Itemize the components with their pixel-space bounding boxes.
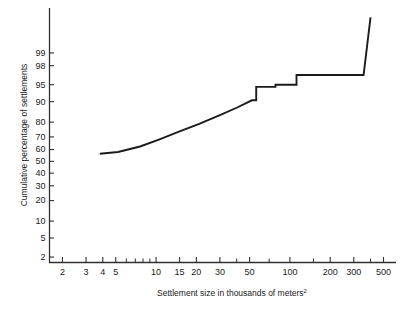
x-tick-label-200: 200 — [323, 267, 338, 277]
x-axis-title-group: Settlement size in thousands of meters2 — [157, 288, 307, 299]
x-axis-tick-labels: 23451015203050100200300500 — [60, 267, 391, 277]
y-tick-label-50: 50 — [35, 156, 45, 166]
x-axis-ticks — [62, 257, 383, 263]
y-tick-label-10: 10 — [35, 216, 45, 226]
y-tick-label-99: 99 — [35, 48, 45, 58]
axis-lines — [50, 8, 397, 263]
x-tick-label-30: 30 — [215, 267, 225, 277]
data-series-group — [100, 17, 371, 153]
axes-group — [50, 8, 397, 263]
y-axis-tick-labels: 99989590807060504030201052 — [35, 48, 45, 262]
x-tick-label-300: 300 — [346, 267, 361, 277]
x-axis-title: Settlement size in thousands of meters2 — [157, 288, 307, 299]
x-tick-label-3: 3 — [84, 267, 89, 277]
y-tick-label-90: 90 — [35, 97, 45, 107]
x-tick-label-50: 50 — [245, 267, 255, 277]
cumulative-distribution-chart: 99989590807060504030201052 2345101520305… — [0, 0, 411, 310]
y-axis-ticks — [50, 53, 55, 257]
x-tick-label-4: 4 — [100, 267, 105, 277]
y-tick-label-70: 70 — [35, 132, 45, 142]
y-tick-label-98: 98 — [35, 61, 45, 71]
y-tick-label-95: 95 — [35, 80, 45, 90]
data-line-cumulative — [100, 17, 371, 153]
y-tick-label-5: 5 — [40, 233, 45, 243]
y-tick-label-40: 40 — [35, 168, 45, 178]
y-tick-label-60: 60 — [35, 144, 45, 154]
chart-canvas: 99989590807060504030201052 2345101520305… — [0, 0, 411, 310]
y-tick-label-80: 80 — [35, 117, 45, 127]
x-tick-label-10: 10 — [151, 267, 161, 277]
y-tick-label-20: 20 — [35, 195, 45, 205]
x-tick-label-15: 15 — [175, 267, 185, 277]
x-tick-label-5: 5 — [113, 267, 118, 277]
y-axis-title: Cumulative percentage of settlements — [19, 64, 29, 207]
x-tick-label-500: 500 — [376, 267, 391, 277]
y-tick-label-2: 2 — [40, 252, 45, 262]
x-tick-label-100: 100 — [282, 267, 297, 277]
x-tick-label-2: 2 — [60, 267, 65, 277]
y-axis-title-group: Cumulative percentage of settlements — [19, 64, 29, 207]
x-tick-label-20: 20 — [191, 267, 201, 277]
y-tick-label-30: 30 — [35, 181, 45, 191]
